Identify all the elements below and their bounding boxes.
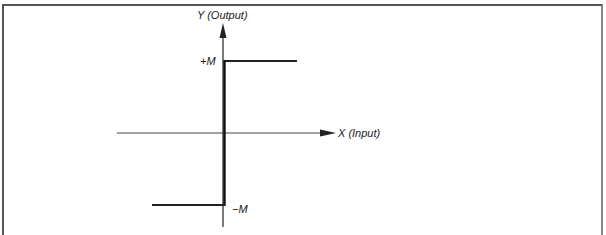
y-axis-label: Y (Output) <box>197 9 248 21</box>
x-axis-label: X (Input) <box>337 127 381 139</box>
y-axis-arrowhead-icon <box>220 23 227 38</box>
x-axis <box>117 130 336 137</box>
lower-level-label: −M <box>232 203 248 215</box>
upper-level-label: +M <box>200 55 216 67</box>
relay-characteristic-diagram: Y (Output) X (Input) +M −M <box>0 0 606 235</box>
x-axis-arrowhead-icon <box>320 130 336 137</box>
